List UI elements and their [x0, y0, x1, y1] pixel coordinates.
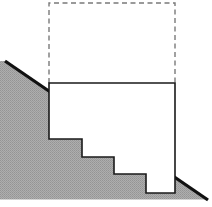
staircase-diagram — [0, 0, 212, 207]
figure-container — [0, 0, 212, 207]
